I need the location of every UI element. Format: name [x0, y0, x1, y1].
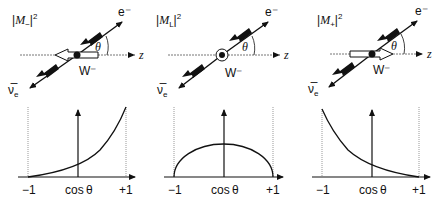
electron-spin-arrow-icon: [229, 28, 252, 42]
electron-label: e⁻: [265, 5, 278, 19]
electron-label: e⁻: [415, 4, 428, 18]
w-boson-dot-icon: [74, 52, 81, 59]
w-boson-label: W⁻: [373, 63, 390, 77]
amplitude-label-long: |ML|2: [156, 12, 182, 29]
amplitude-label-minus: |M−|2: [12, 12, 38, 29]
theta-label: θ: [242, 40, 248, 54]
xaxis-label: cos θ: [359, 183, 387, 197]
theta-label: θ: [95, 40, 101, 54]
z-arrowhead-icon: [273, 52, 280, 58]
tick-label-max: +1: [266, 183, 280, 197]
plot-plus: −1 cos θ +1: [312, 107, 430, 197]
angle-arc: [106, 36, 108, 55]
panel-long-diagram: |ML|2 z θ e⁻ W⁻ ν̅e: [156, 5, 289, 99]
panel-minus-diagram: |M−|2 z θ e⁻ W⁻ ν̅e: [8, 5, 144, 99]
neutrino-label: ν̅e: [8, 83, 19, 99]
z-arrowhead-icon: [416, 51, 423, 57]
helicity-diagram: |M−|2 z θ e⁻ W⁻ ν̅e |ML|2 z θ e⁻: [0, 0, 443, 209]
neutrino-label: ν̅e: [308, 82, 319, 98]
w-boson-dot-icon: [369, 51, 376, 58]
neutrino-label: ν̅e: [157, 83, 168, 99]
w-boson-dot-icon: [219, 52, 225, 58]
neutrino-spin-arrow-icon: [36, 64, 59, 78]
xaxis-label: cos θ: [65, 183, 93, 197]
curve-falling: [322, 109, 419, 177]
angle-arc: [401, 34, 405, 54]
amplitude-label-plus: |M+|2: [317, 12, 343, 29]
tick-label-min: −1: [316, 183, 330, 197]
plot-minus: −1 cos θ +1: [18, 107, 135, 197]
tick-label-min: −1: [22, 183, 36, 197]
theta-label: θ: [391, 39, 397, 53]
neutrino-spin-arrow-icon: [182, 64, 205, 78]
z-label: z: [426, 47, 432, 61]
tick-label-min: −1: [168, 183, 182, 197]
tick-label-max: +1: [119, 183, 133, 197]
angle-arc: [252, 36, 255, 55]
z-arrowhead-icon: [128, 52, 135, 58]
z-label: z: [283, 48, 289, 62]
electron-label: e⁻: [118, 5, 131, 19]
w-boson-label: W⁻: [225, 66, 242, 80]
neutrino-spin-arrow-icon: [332, 62, 355, 76]
tick-label-max: +1: [412, 183, 426, 197]
plot-long: −1 cos θ +1: [164, 107, 283, 197]
panel-plus-diagram: |M+|2 z θ e⁻ W⁻ ν̅e: [308, 4, 432, 98]
w-boson-label: W⁻: [79, 64, 96, 78]
xaxis-label: cos θ: [211, 183, 239, 197]
neutrino-momentum-arrow: [329, 54, 372, 87]
z-label: z: [138, 48, 144, 62]
curve-rising: [28, 107, 126, 177]
